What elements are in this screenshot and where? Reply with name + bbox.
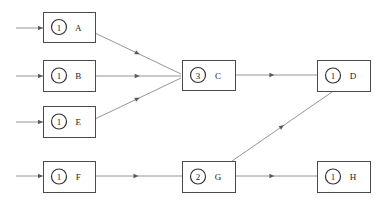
node-b[interactable]: 1B bbox=[44, 61, 96, 92]
arrowhead-icon bbox=[134, 174, 139, 178]
arrowhead-icon bbox=[38, 26, 43, 30]
node-label: G bbox=[215, 172, 222, 182]
token-count: 2 bbox=[196, 172, 201, 182]
node-label: C bbox=[215, 71, 221, 81]
node-label: B bbox=[75, 71, 81, 81]
edge-in-A bbox=[16, 26, 43, 30]
edge-in-E bbox=[16, 120, 43, 124]
node-d[interactable]: 1D bbox=[318, 61, 371, 92]
token-count: 1 bbox=[331, 71, 336, 81]
node-e[interactable]: 1E bbox=[44, 107, 96, 138]
edge-G-H bbox=[235, 174, 317, 178]
node-label: H bbox=[350, 172, 357, 182]
arrowhead-icon bbox=[269, 174, 274, 178]
node-label: D bbox=[350, 71, 357, 81]
token-count: 1 bbox=[57, 23, 62, 33]
edge-in-F bbox=[16, 174, 43, 178]
edge-B-C bbox=[95, 74, 181, 78]
node-g[interactable]: 2G bbox=[183, 162, 236, 193]
token-count: 1 bbox=[331, 172, 336, 182]
node-label: E bbox=[76, 117, 82, 127]
edge-G-D bbox=[232, 92, 332, 161]
node-label: A bbox=[75, 23, 82, 33]
node-a[interactable]: 1A bbox=[44, 13, 96, 43]
token-count: 1 bbox=[57, 172, 62, 182]
node-label: F bbox=[76, 172, 81, 182]
arrowhead-icon bbox=[38, 120, 43, 124]
token-count: 1 bbox=[57, 71, 62, 81]
node-f[interactable]: 1F bbox=[44, 162, 96, 193]
arrowhead-icon bbox=[279, 125, 284, 130]
edge-F-G bbox=[95, 174, 182, 178]
edge-in-B bbox=[16, 74, 43, 78]
edges-layer bbox=[16, 26, 332, 178]
edge-A-C bbox=[95, 33, 181, 74]
nodes-layer: 1A1B1E1F3C2G1D1H bbox=[44, 13, 371, 193]
token-count: 1 bbox=[57, 117, 62, 127]
arrowhead-icon bbox=[135, 74, 140, 78]
token-count: 3 bbox=[196, 71, 201, 81]
arrowhead-icon bbox=[269, 73, 274, 77]
edge-E-C bbox=[95, 78, 181, 119]
edge-C-D bbox=[235, 73, 317, 77]
node-h[interactable]: 1H bbox=[318, 162, 371, 193]
arrowhead-icon bbox=[38, 74, 43, 78]
node-c[interactable]: 3C bbox=[183, 61, 236, 91]
arrowhead-icon bbox=[38, 174, 43, 178]
diagram-canvas: 1A1B1E1F3C2G1D1H bbox=[0, 0, 389, 204]
flow-diagram: 1A1B1E1F3C2G1D1H bbox=[0, 0, 389, 204]
